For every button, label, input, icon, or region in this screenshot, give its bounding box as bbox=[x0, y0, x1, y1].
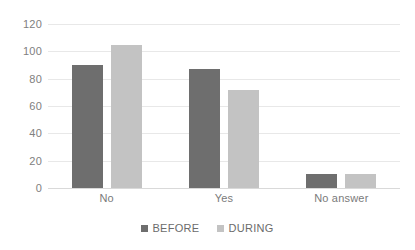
legend-item-during[interactable]: DURING bbox=[217, 222, 273, 234]
gridline bbox=[48, 188, 400, 189]
bar-group bbox=[165, 24, 282, 188]
y-axis-tick-label: 100 bbox=[23, 45, 42, 57]
bar-group bbox=[283, 24, 400, 188]
legend-swatch-icon bbox=[217, 225, 224, 232]
legend-label: DURING bbox=[228, 222, 273, 234]
bar-before[interactable] bbox=[189, 69, 220, 188]
y-axis-tick-label: 60 bbox=[29, 100, 42, 112]
y-axis-tick-label: 40 bbox=[29, 127, 42, 139]
x-axis-tick-label: Yes bbox=[165, 192, 282, 204]
bar-during[interactable] bbox=[111, 45, 142, 189]
bar-before[interactable] bbox=[306, 174, 337, 188]
bar-during[interactable] bbox=[228, 90, 259, 188]
y-axis-tick-label: 20 bbox=[29, 155, 42, 167]
x-axis-tick-label: No answer bbox=[283, 192, 400, 204]
chart-legend: BEFOREDURING bbox=[0, 222, 415, 234]
y-axis-tick-label: 80 bbox=[29, 73, 42, 85]
bar-during[interactable] bbox=[345, 174, 376, 188]
bar-groups bbox=[48, 24, 400, 188]
legend-item-before[interactable]: BEFORE bbox=[141, 222, 199, 234]
y-axis: 020406080100120 bbox=[0, 24, 42, 188]
legend-swatch-icon bbox=[141, 225, 148, 232]
legend-label: BEFORE bbox=[152, 222, 199, 234]
y-axis-tick-label: 120 bbox=[23, 18, 42, 30]
y-axis-tick-label: 0 bbox=[36, 182, 42, 194]
bar-group bbox=[48, 24, 165, 188]
bar-chart: 020406080100120 NoYesNo answer BEFOREDUR… bbox=[0, 0, 415, 250]
x-axis-tick-label: No bbox=[48, 192, 165, 204]
x-axis: NoYesNo answer bbox=[48, 192, 400, 204]
plot-area bbox=[48, 24, 400, 188]
bar-before[interactable] bbox=[72, 65, 103, 188]
